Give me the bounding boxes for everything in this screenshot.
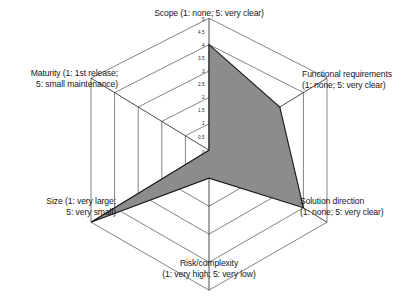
radar-data-polygon bbox=[91, 45, 303, 223]
spoke-maturity bbox=[91, 78, 209, 150]
tick-label-1-5: 1.5 bbox=[198, 108, 205, 113]
axis-label-scope: Scope (1: none; 5: very clear) bbox=[154, 8, 264, 19]
axis-label-maturity: Maturity (1: 1st release; 5: small maint… bbox=[31, 68, 118, 89]
axis-label-functional-requirements: Functional requirements (1: none; 5: ver… bbox=[302, 69, 392, 90]
axis-label-solution-line2: (1: none; 5: very clear) bbox=[300, 207, 384, 218]
tick-label-0-5: 0.5 bbox=[198, 135, 205, 140]
axis-label-functional-line1: Functional requirements bbox=[302, 69, 392, 80]
axis-label-size-line2: 5: very small) bbox=[46, 207, 116, 218]
radar-chart: 5 4.5 4 3.5 3 2.5 2 1.5 1 0.5 0 Scope (1… bbox=[0, 0, 418, 298]
axis-label-size-line1: Size (1: very large; bbox=[46, 196, 116, 207]
axis-label-maturity-line2: 5: small maintenance) bbox=[31, 79, 118, 90]
axis-label-solution-line1: Solution direction bbox=[300, 196, 384, 207]
tick-label-3-5: 3.5 bbox=[198, 56, 205, 61]
axis-label-risk-line1: Risk/complexity bbox=[162, 258, 255, 269]
axis-label-size: Size (1: very large; 5: very small) bbox=[46, 196, 116, 217]
tick-label-3: 3 bbox=[202, 69, 205, 74]
tick-label-2: 2 bbox=[202, 95, 205, 100]
axis-label-maturity-line1: Maturity (1: 1st release; bbox=[31, 68, 118, 79]
tick-label-2-5: 2.5 bbox=[198, 82, 205, 87]
radial-tick-labels: 5 4.5 4 3.5 3 2.5 2 1.5 1 0.5 0 bbox=[198, 17, 205, 156]
axis-label-functional-line2: (1: none; 5: very clear) bbox=[302, 80, 392, 91]
radar-chart-canvas: 5 4.5 4 3.5 3 2.5 2 1.5 1 0.5 0 bbox=[0, 0, 418, 298]
tick-label-1: 1 bbox=[202, 121, 205, 126]
axis-label-solution-direction: Solution direction (1: none; 5: very cle… bbox=[300, 196, 384, 217]
tick-label-4-5: 4.5 bbox=[198, 30, 205, 35]
tick-label-4: 4 bbox=[202, 43, 205, 48]
axis-label-risk-complexity: Risk/complexity (1: very high; 5: very l… bbox=[162, 258, 255, 279]
axis-label-scope-line1: Scope (1: none; 5: very clear) bbox=[154, 8, 264, 19]
tick-label-0: 0 bbox=[202, 150, 205, 155]
axis-label-risk-line2: (1: very high; 5: very low) bbox=[162, 269, 255, 280]
